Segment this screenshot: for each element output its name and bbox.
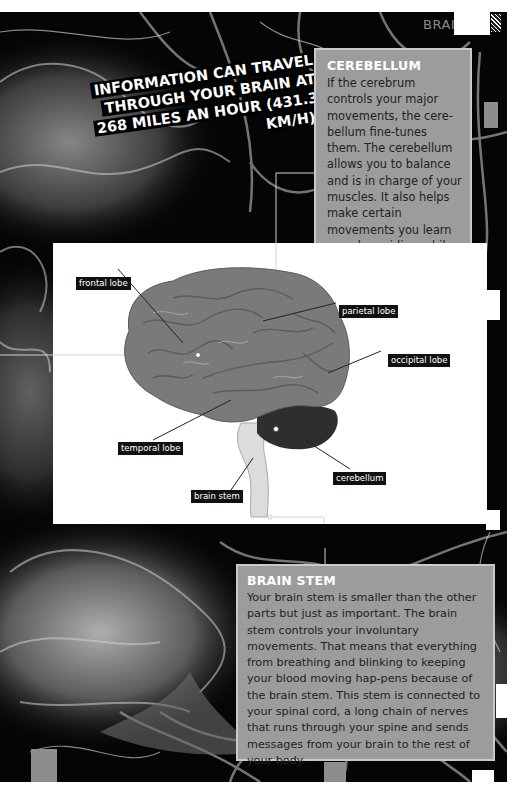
label-parietal-lobe: parietal lobe	[339, 305, 398, 318]
label-temporal-lobe: temporal lobe	[118, 442, 183, 455]
decor-square	[484, 102, 498, 128]
brain-stem-info-box: BRAIN STEM Your brain stem is smaller th…	[236, 564, 495, 761]
decor-square	[496, 684, 507, 718]
page-spread: BRAIN INFORMATION CAN TRAVEL THROUGH YOU…	[0, 12, 507, 782]
decor-square	[486, 290, 500, 320]
page-gutter	[507, 0, 514, 785]
label-occipital-lobe: occipital lobe	[388, 354, 450, 367]
decor-square	[31, 749, 57, 782]
label-frontal-lobe: frontal lobe	[76, 277, 131, 290]
decor-square	[324, 762, 346, 782]
label-brain-stem: brain stem	[191, 490, 243, 503]
label-cerebellum: cerebellum	[333, 472, 386, 485]
decor-square	[486, 510, 500, 530]
brain-stem-body: Your brain stem is smaller than the othe…	[247, 590, 485, 769]
brain-stem-title: BRAIN STEM	[247, 573, 485, 588]
decor-square	[472, 770, 494, 782]
brain-diagram: frontal lobe parietal lobe occipital lob…	[53, 243, 487, 524]
